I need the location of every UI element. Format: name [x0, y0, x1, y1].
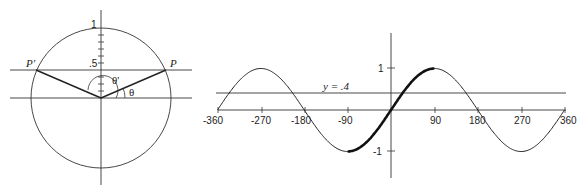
x-tick-label: -360	[203, 115, 223, 126]
label-theta-prime: θ'	[112, 74, 119, 86]
x-tick-label: -180	[291, 115, 311, 126]
x-tick-label: -90	[338, 115, 353, 126]
x-tick-label: 90	[430, 115, 442, 126]
label-one: 1	[91, 19, 97, 30]
x-tick-label: 180	[469, 115, 486, 126]
figure: 1 .5 P P' θ θ' -360 -270 -180 -90 90 180…	[0, 0, 585, 189]
y-tick-label: -1	[373, 146, 382, 157]
label-half: .5	[89, 58, 98, 69]
label-p-prime: P'	[25, 57, 36, 69]
theta-arc	[123, 88, 125, 98]
reference-line-label: y = .4	[322, 80, 350, 92]
radius-to-p-prime	[36, 70, 101, 98]
y-tick-label: 1	[378, 63, 384, 74]
sine-graph: -360 -270 -180 -90 90 180 270 360 1 -1 y…	[203, 33, 577, 178]
x-tick-label: -270	[251, 115, 271, 126]
x-tick-label: 360	[560, 115, 577, 126]
unit-circle-diagram: 1 .5 P P' θ θ'	[10, 10, 192, 185]
label-p: P	[169, 57, 177, 69]
x-tick-label: 270	[514, 115, 531, 126]
label-theta: θ	[129, 86, 134, 98]
